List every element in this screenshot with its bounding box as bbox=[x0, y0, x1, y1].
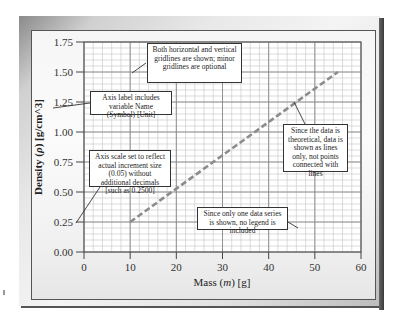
x-tick-label: 30 bbox=[217, 261, 229, 273]
y-tick-label: 0.00 bbox=[54, 246, 74, 258]
x-tick-label: 20 bbox=[171, 261, 183, 273]
y-tick-label: 0.50 bbox=[54, 186, 74, 198]
y-tick-label: 0.25 bbox=[54, 216, 74, 228]
y-axis-title: Density (ρ) [g/cm^3] bbox=[32, 99, 45, 195]
x-tick-label: 10 bbox=[125, 261, 137, 273]
x-tick-label: 0 bbox=[81, 261, 87, 273]
y-tick-label: 1.75 bbox=[54, 36, 74, 48]
y-tick-label: 0.75 bbox=[54, 156, 74, 168]
x-tick-label: 50 bbox=[309, 261, 321, 273]
annotation-theoretical: Since the data is theoretical, data is s… bbox=[283, 124, 348, 172]
y-tick-label: 1.00 bbox=[54, 126, 74, 138]
annotation-axis-scale: Axis scale set to reflect actual increme… bbox=[89, 150, 171, 187]
annotation-gridlines: Both horizontal and vertical gridlines a… bbox=[147, 43, 242, 83]
y-tick-label: 1.50 bbox=[54, 66, 74, 78]
annotation-axis-label: Axis label includes variable Name (Symbo… bbox=[90, 91, 172, 115]
x-axis-title: Mass (m) [g] bbox=[194, 276, 251, 289]
annotation-legend: Since only one data series is shown, no … bbox=[197, 207, 288, 230]
x-tick-label: 40 bbox=[263, 261, 275, 273]
x-tick-label: 60 bbox=[356, 261, 368, 273]
